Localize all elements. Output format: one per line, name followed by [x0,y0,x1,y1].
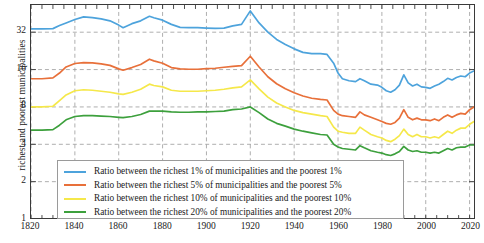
x-tick-1900: 1900 [181,221,231,231]
legend-item: Ratio between the richest 10% of municip… [64,192,397,205]
x-tick-1980: 1980 [357,221,407,231]
chart-legend: Ratio between the richest 1% of municipa… [57,160,404,219]
legend-swatch-ratio-1 [64,171,86,173]
y-tick-32: 32 [0,25,26,35]
y-tick-8: 8 [0,100,26,110]
x-tick-2020: 2020 [446,221,484,231]
y-tick-4: 4 [0,138,26,148]
x-tick-1920: 1920 [225,221,275,231]
legend-swatch-ratio-5 [64,184,86,186]
x-tick-1840: 1840 [49,221,99,231]
y-tick-16: 16 [0,63,26,73]
legend-label-ratio-20: Ratio between the richest 20% of municip… [94,206,351,219]
x-tick-1820: 1820 [5,221,55,231]
legend-item: Ratio between the richest 1% of municipa… [64,165,397,178]
legend-label-ratio-1: Ratio between the richest 1% of municipa… [94,165,342,178]
x-tick-1940: 1940 [269,221,319,231]
legend-item: Ratio between the richest 20% of municip… [64,206,397,219]
x-tick-2000: 2000 [402,221,452,231]
legend-label-ratio-10: Ratio between the richest 10% of municip… [94,192,351,205]
x-tick-1960: 1960 [313,221,363,231]
legend-item: Ratio between the richest 5% of municipa… [64,179,397,192]
legend-swatch-ratio-10 [64,198,86,200]
x-tick-1860: 1860 [93,221,143,231]
legend-label-ratio-5: Ratio between the richest 5% of municipa… [94,179,342,192]
y-tick-2: 2 [0,175,26,185]
chart-figure: richest and poorest municipalities 32168… [0,0,484,243]
x-tick-1880: 1880 [137,221,187,231]
legend-swatch-ratio-20 [64,211,86,213]
